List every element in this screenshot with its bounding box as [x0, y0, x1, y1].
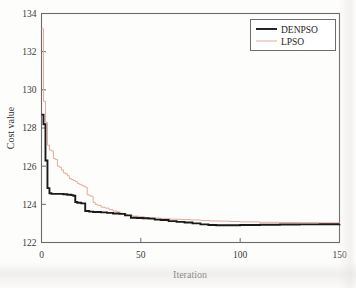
y-tick-label: 124	[22, 200, 37, 210]
y-tick-label: 122	[22, 238, 37, 248]
legend: DENPSO LPSO	[251, 20, 336, 51]
y-axis-tick-labels: 122124126128130132134	[22, 9, 37, 248]
legend-label-denpso: DENPSO	[281, 25, 318, 35]
x-tick-label: 100	[233, 250, 248, 260]
x-tick-label: 150	[332, 250, 347, 260]
y-tick-label: 134	[22, 9, 37, 19]
convergence-chart: 122124126128130132134 050100150 Iteratio…	[0, 0, 356, 288]
x-axis-tick-labels: 050100150	[39, 250, 347, 260]
series-line-denpso	[42, 115, 340, 226]
x-tick-label: 50	[136, 250, 146, 260]
y-axis-title: Cost value	[5, 106, 16, 149]
y-tick-label: 128	[22, 123, 37, 133]
scanned-page: 122124126128130132134 050100150 Iteratio…	[0, 0, 356, 288]
series-line-lpso	[42, 29, 340, 223]
y-tick-label: 130	[22, 85, 37, 95]
y-tick-label: 132	[22, 47, 37, 57]
x-tick-label: 0	[39, 250, 44, 260]
x-axis-ticks	[42, 238, 340, 243]
legend-label-lpso: LPSO	[281, 37, 304, 47]
x-axis-title: Iteration	[173, 269, 207, 280]
y-tick-label: 126	[22, 162, 37, 172]
